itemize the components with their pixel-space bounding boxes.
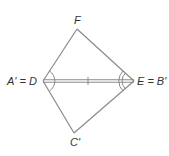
angle-arc-E-inner: [122, 73, 125, 89]
angle-arc-D: [50, 71, 55, 91]
vertex-label-A'-D: A' = D: [6, 75, 37, 87]
vertex-label-F: F: [74, 14, 82, 26]
vertex-label-C': C': [70, 136, 81, 148]
segment-A'C': [43, 81, 74, 133]
segment-DF: [43, 29, 77, 81]
geometry-diagram: F A' = D E = B' C': [0, 0, 169, 156]
vertex-label-E-B': E = B': [137, 75, 167, 87]
